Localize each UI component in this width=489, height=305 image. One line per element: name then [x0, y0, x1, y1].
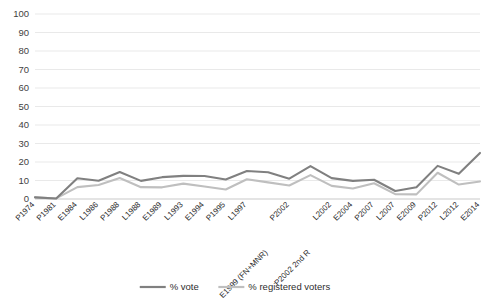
- legend-label: % vote: [170, 281, 199, 292]
- y-axis-tick-label: 70: [18, 64, 29, 75]
- chart-canvas: 0102030405060708090100 P1974P1981E1984L1…: [0, 0, 489, 305]
- y-axis-tick-label: 40: [18, 119, 29, 130]
- y-axis-tick-label: 60: [18, 82, 29, 93]
- legend-label: % registered voters: [248, 281, 330, 292]
- chart-background: [0, 0, 489, 305]
- y-axis-tick-label: 50: [18, 101, 29, 112]
- y-axis-tick-label: 100: [13, 8, 29, 19]
- y-axis-tick-label: 90: [18, 27, 29, 38]
- y-axis-tick-label: 30: [18, 138, 29, 149]
- y-axis-tick-label: 10: [18, 175, 29, 186]
- y-axis-tick-label: 80: [18, 45, 29, 56]
- line-chart: 0102030405060708090100 P1974P1981E1984L1…: [0, 0, 489, 305]
- y-axis-tick-label: 20: [18, 156, 29, 167]
